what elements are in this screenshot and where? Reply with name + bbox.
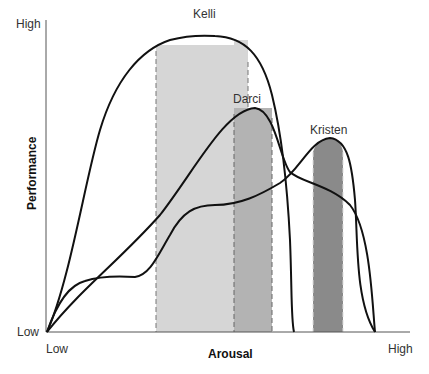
optimal-zone-kristen [313,138,343,332]
optimal-zone-kelli [156,45,234,332]
y-axis-title: Performance [25,136,39,210]
x-tick-low: Low [46,342,68,356]
y-tick-low: Low [17,325,39,339]
x-axis-title: Arousal [208,347,253,361]
optimal-zone-darci [234,108,272,332]
label-darci: Darci [233,92,261,106]
arousal-performance-chart: Kelli Darci Kristen High Low Low High Ar… [0,0,429,374]
label-kristen: Kristen [310,123,347,137]
label-kelli: Kelli [193,7,216,21]
y-tick-high: High [16,17,41,31]
x-tick-high: High [388,342,413,356]
